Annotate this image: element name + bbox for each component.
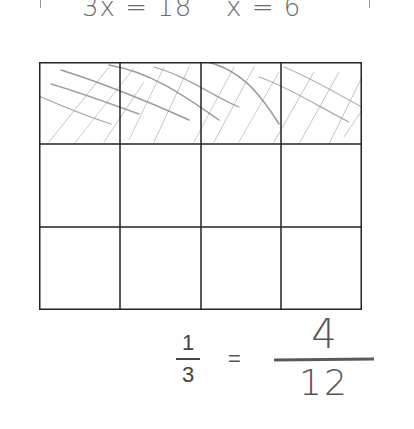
equals-sign: = bbox=[228, 346, 241, 372]
grid-cells bbox=[39, 62, 362, 310]
handwritten-fraction: 4 12 bbox=[274, 312, 374, 403]
printed-numerator: 1 bbox=[176, 330, 200, 356]
printed-denominator: 3 bbox=[176, 362, 200, 388]
edge-mark-right bbox=[369, 0, 370, 8]
grid-lines bbox=[39, 62, 362, 310]
fraction-grid bbox=[39, 62, 362, 310]
equation-x-6: x = 6 bbox=[226, 0, 301, 22]
handwritten-numerator: 4 bbox=[274, 312, 374, 356]
handwritten-denominator: 12 bbox=[274, 363, 374, 403]
handwritten-fraction-bar bbox=[274, 358, 374, 362]
edge-mark-left bbox=[40, 0, 41, 8]
printed-fraction: 1 3 bbox=[176, 330, 200, 388]
fraction-bar bbox=[176, 358, 200, 360]
equation-3x-18: 3x = 18 bbox=[82, 0, 192, 22]
